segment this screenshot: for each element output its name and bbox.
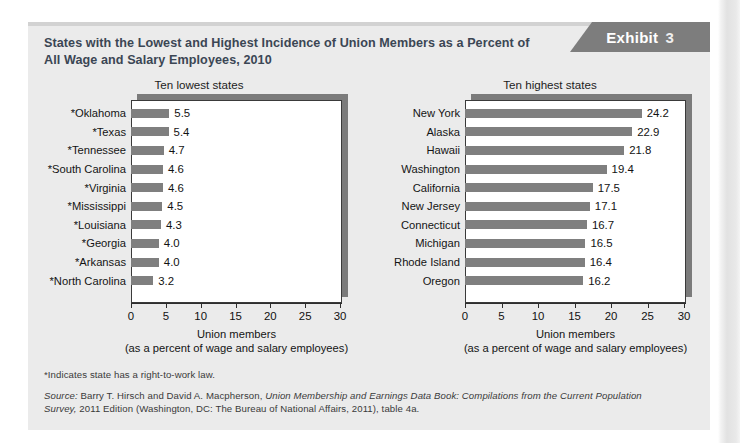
bar xyxy=(465,202,590,211)
source-text-1: Barry T. Hirsch and David A. Macpherson, xyxy=(78,390,265,401)
bar-value-label: 21.8 xyxy=(624,144,651,156)
bar-value-label: 4.6 xyxy=(163,182,184,194)
plot-area: New York24.2Alaska22.9Hawaii21.8Washingt… xyxy=(465,100,686,363)
bar-row: *North Carolina3.2 xyxy=(131,271,342,290)
footnote: *Indicates state has a right-to-work law… xyxy=(44,369,215,380)
chart-ten-highest-states: Ten highest states New York24.2Alaska22.… xyxy=(400,78,700,363)
bar-value-label: 16.2 xyxy=(583,275,610,287)
x-axis-tick-label: 0 xyxy=(462,310,468,322)
bar xyxy=(465,258,585,267)
category-label: Connecticut xyxy=(401,219,465,231)
x-axis-tick xyxy=(538,303,539,308)
category-label: *Oklahoma xyxy=(71,107,131,119)
x-axis-label: Union members xyxy=(465,327,686,341)
category-label: Hawaii xyxy=(426,144,465,156)
exhibit-banner: Exhibit 3 xyxy=(570,22,710,52)
bar-row: Oregon16.2 xyxy=(465,271,686,290)
bar xyxy=(465,276,583,285)
bar-row: Michigan16.5 xyxy=(465,234,686,253)
x-axis-tick-label: 15 xyxy=(568,310,581,322)
x-axis-tick xyxy=(340,303,341,308)
exhibit-title: States with the Lowest and Highest Incid… xyxy=(44,35,544,69)
x-axis-line xyxy=(465,303,686,304)
exhibit-banner-number: 3 xyxy=(665,29,673,46)
bar-row: Hawaii21.8 xyxy=(465,141,686,160)
category-label: Washington xyxy=(401,163,465,175)
bar xyxy=(465,127,632,136)
bar xyxy=(465,165,607,174)
bar-value-label: 4.0 xyxy=(159,256,180,268)
bar-row: *Texas5.4 xyxy=(131,123,342,142)
x-axis-caption: Union members(as a percent of wage and s… xyxy=(465,327,686,355)
category-label: *Georgia xyxy=(82,237,131,249)
x-axis-tick xyxy=(166,303,167,308)
bar-value-label: 22.9 xyxy=(632,126,659,138)
bar xyxy=(465,146,624,155)
bar-row: *South Carolina4.6 xyxy=(131,160,342,179)
bar-row: *Georgia4.0 xyxy=(131,234,342,253)
chart-title: Ten highest states xyxy=(400,78,700,93)
x-axis-tick xyxy=(684,303,685,308)
category-label: Rhode Island xyxy=(394,256,465,268)
bar-row: *Virginia4.6 xyxy=(131,178,342,197)
bar xyxy=(465,109,642,118)
bar xyxy=(465,220,587,229)
x-axis-tick-label: 25 xyxy=(299,310,312,322)
bar xyxy=(131,276,153,285)
x-axis-tick-label: 10 xyxy=(194,310,207,322)
x-axis-tick-label: 30 xyxy=(334,310,347,322)
bar xyxy=(465,183,593,192)
category-label: *South Carolina xyxy=(48,163,131,175)
bar-rows: New York24.2Alaska22.9Hawaii21.8Washingt… xyxy=(465,104,686,290)
bar-row: *Tennessee4.7 xyxy=(131,141,342,160)
chart-title: Ten lowest states xyxy=(44,78,354,93)
x-axis-tick xyxy=(575,303,576,308)
x-axis-tick xyxy=(236,303,237,308)
bar-row: California17.5 xyxy=(465,178,686,197)
x-axis-tick-label: 20 xyxy=(264,310,277,322)
x-axis-tick xyxy=(201,303,202,308)
category-label: *Mississippi xyxy=(68,200,131,212)
bar xyxy=(131,183,163,192)
bar-row: *Mississippi4.5 xyxy=(131,197,342,216)
x-axis-tick xyxy=(648,303,649,308)
category-label: *Virginia xyxy=(85,182,131,194)
bar-row: *Oklahoma5.5 xyxy=(131,104,342,123)
x-axis-tick-label: 15 xyxy=(229,310,242,322)
x-axis-tick-label: 30 xyxy=(678,310,691,322)
bar-value-label: 24.2 xyxy=(642,107,669,119)
bar xyxy=(131,202,162,211)
x-axis-tick xyxy=(131,303,132,308)
bar-row: *Louisiana4.3 xyxy=(131,216,342,235)
category-label: Alaska xyxy=(426,126,465,138)
bar-value-label: 4.3 xyxy=(161,219,182,231)
category-label: *Texas xyxy=(92,126,131,138)
category-label: *Tennessee xyxy=(68,144,131,156)
x-axis-sublabel: (as a percent of wage and salary employe… xyxy=(93,341,380,355)
category-label: California xyxy=(413,182,465,194)
bar-rows: *Oklahoma5.5*Texas5.4*Tennessee4.7*South… xyxy=(131,104,342,290)
x-axis-tick-label: 0 xyxy=(128,310,134,322)
x-axis-caption: Union members(as a percent of wage and s… xyxy=(131,327,342,355)
bar-row: Rhode Island16.4 xyxy=(465,253,686,272)
x-axis-tick-label: 10 xyxy=(532,310,545,322)
exhibit-banner-word: Exhibit xyxy=(606,29,658,46)
bar xyxy=(131,127,169,136)
source-note: Source: Barry T. Hirsch and David A. Mac… xyxy=(44,389,644,415)
category-label: *Arkansas xyxy=(75,256,131,268)
x-axis-tick-label: 20 xyxy=(605,310,618,322)
bar-value-label: 5.4 xyxy=(169,126,190,138)
category-label: Oregon xyxy=(423,275,465,287)
x-axis-tick xyxy=(502,303,503,308)
bar-value-label: 3.2 xyxy=(153,275,174,287)
bar-value-label: 17.5 xyxy=(593,182,620,194)
bar-value-label: 16.5 xyxy=(585,237,612,249)
chart-ten-lowest-states: Ten lowest states *Oklahoma5.5*Texas5.4*… xyxy=(44,78,354,363)
x-axis-sublabel: (as a percent of wage and salary employe… xyxy=(433,341,718,355)
category-label: Michigan xyxy=(415,237,465,249)
page-edge-strip xyxy=(718,0,740,443)
bar-row: *Arkansas4.0 xyxy=(131,253,342,272)
bar-value-label: 5.5 xyxy=(169,107,190,119)
bar-value-label: 17.1 xyxy=(590,200,617,212)
x-axis-tick xyxy=(611,303,612,308)
